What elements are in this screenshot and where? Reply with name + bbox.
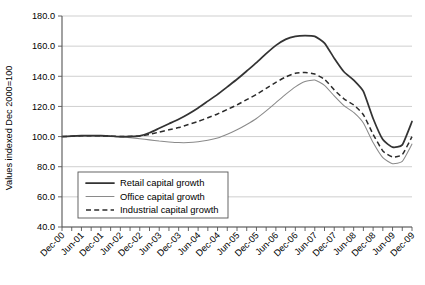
chart-legend: Retail capital growthOffice capital grow…: [78, 172, 228, 218]
y-tick-label: 40.0: [37, 222, 55, 232]
capital-growth-line-chart: 40.060.080.0100.0120.0140.0160.0180.0 De…: [0, 0, 425, 285]
series-line-retail-capital-growth: [62, 36, 412, 148]
legend-label: Industrial capital growth: [120, 204, 219, 215]
y-tick-label: 160.0: [32, 41, 55, 51]
y-tick-label: 140.0: [32, 72, 55, 82]
y-tick-label: 180.0: [32, 11, 55, 21]
y-tick-label: 80.0: [37, 162, 55, 172]
y-axis-tick-labels: 40.060.080.0100.0120.0140.0160.0180.0: [32, 11, 55, 232]
series-layer: [62, 36, 412, 164]
series-line-office-capital-growth: [62, 80, 412, 164]
y-tick-label: 100.0: [32, 132, 55, 142]
legend-label: Office capital growth: [120, 191, 205, 202]
y-tick-label: 60.0: [37, 192, 55, 202]
y-tick-label: 120.0: [32, 102, 55, 112]
y-axis-title-text: Values indexed Dec 2000=100: [4, 66, 14, 191]
x-axis-tick-labels: Dec-00Jun-01Dec-01Jun-02Dec-02Jun-03Dec-…: [38, 230, 416, 258]
legend-label: Retail capital growth: [120, 177, 204, 188]
y-axis-title: Values indexed Dec 2000=100: [4, 66, 14, 191]
chart-canvas: 40.060.080.0100.0120.0140.0160.0180.0 De…: [0, 0, 425, 285]
